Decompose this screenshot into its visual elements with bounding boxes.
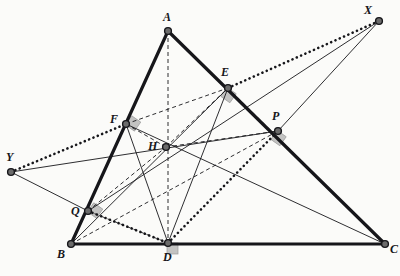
dotted-EX	[228, 21, 379, 88]
cevian-BE	[71, 88, 228, 244]
vertex-dot-f	[123, 121, 130, 128]
point-label-b: B	[57, 248, 65, 260]
vertex-dot-h	[163, 144, 170, 151]
segment-ED	[168, 88, 228, 243]
point-label-y: Y	[6, 151, 13, 163]
segment-YP	[11, 131, 278, 172]
geometry-figure: ABCDEFHPQXY	[0, 0, 400, 276]
segment-PX	[278, 21, 379, 131]
vertex-dot-p	[275, 128, 282, 135]
vertex-dot-d	[165, 240, 172, 247]
point-label-h: H	[148, 140, 157, 152]
vertex-dot-q	[85, 208, 92, 215]
vertex-dot-x	[376, 18, 383, 25]
point-label-d: D	[163, 251, 172, 263]
vertex-dot-e	[225, 85, 232, 92]
vertex-dot-y	[8, 169, 15, 176]
geometry-canvas	[0, 0, 400, 276]
point-label-p: P	[272, 110, 279, 122]
vertex-dot-a	[165, 28, 172, 35]
vertex-dot-c	[382, 241, 389, 248]
point-label-e: E	[221, 66, 229, 78]
point-label-c: C	[390, 243, 398, 255]
point-label-f: F	[110, 113, 118, 125]
point-label-a: A	[163, 11, 171, 23]
vertex-dot-b	[68, 241, 75, 248]
point-label-q: Q	[71, 205, 80, 217]
cevian-CF	[126, 124, 385, 244]
point-label-x: X	[364, 4, 372, 16]
